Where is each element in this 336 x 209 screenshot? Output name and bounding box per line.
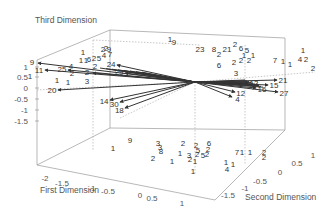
- box-edge: [110, 128, 285, 130]
- point-label: 2: [205, 150, 210, 159]
- projection-line: [120, 82, 195, 118]
- x-tick-label: 1: [180, 199, 185, 208]
- z-tick-label: -1: [21, 106, 29, 115]
- vector-label: 25: [58, 65, 67, 74]
- x-axis-title: First Dimension: [40, 185, 99, 195]
- point-label: 8: [159, 147, 164, 156]
- vector-label: 9: [30, 58, 35, 67]
- point-label: 23: [196, 45, 205, 54]
- point-label: 2: [239, 56, 244, 65]
- y-tick-label: 0: [278, 168, 283, 177]
- point-label: 1: [191, 167, 196, 176]
- data-point-labels: 1114231116252229471923822216265112237111…: [28, 35, 316, 176]
- vector-label: 20: [48, 86, 57, 95]
- point-label: 2: [232, 58, 237, 67]
- point-label: 2: [151, 154, 156, 163]
- z-axis-title: Third Dimension: [35, 15, 97, 25]
- box-edge: [37, 128, 110, 165]
- point-label: 1: [251, 51, 256, 60]
- point-label: 1: [170, 157, 175, 166]
- point-label: 1: [111, 144, 116, 153]
- x-tick-label: -2: [41, 174, 49, 183]
- point-label: 2: [217, 50, 222, 59]
- point-label: 2: [262, 153, 267, 162]
- vector-label: 21: [279, 76, 288, 85]
- point-label: 1: [281, 57, 286, 66]
- x-tick-label: 0: [138, 191, 143, 200]
- y-tick-label: 1: [311, 151, 316, 160]
- point-label: 1: [28, 72, 33, 81]
- point-label: 2: [70, 69, 75, 78]
- point-label: 9: [128, 136, 133, 145]
- point-label: 1: [301, 46, 306, 55]
- z-tick-label: -1.5: [14, 117, 28, 126]
- point-label: 7: [273, 56, 278, 65]
- point-label: 1: [178, 149, 183, 158]
- y-axis-title: Second Dimension: [245, 192, 317, 202]
- point-label: 2: [181, 139, 186, 148]
- vector-label: 14: [100, 97, 109, 106]
- vector-label: 4: [235, 95, 240, 104]
- 3d-biplot: 1192522429201430181316152127124 11142311…: [0, 0, 336, 209]
- box-edge: [110, 30, 285, 38]
- point-label: 1: [231, 160, 236, 169]
- y-tick-label: -0.5: [253, 177, 267, 186]
- point-label: 3: [85, 77, 90, 86]
- point-label: 1: [55, 76, 60, 85]
- point-label: 9: [172, 38, 177, 47]
- y-tick-label: -1.5: [221, 191, 235, 200]
- vector-label: 18: [115, 106, 124, 115]
- z-tick-label: -0.5: [14, 95, 28, 104]
- point-label: 7: [108, 50, 113, 59]
- point-label: 3: [234, 69, 239, 78]
- point-label: 1: [288, 60, 293, 69]
- x-tick-label: 0.5: [146, 194, 158, 203]
- z-tick-label: 1: [24, 63, 29, 72]
- point-label: 2: [247, 56, 252, 65]
- point-label: 21: [223, 45, 232, 54]
- point-label: 2: [311, 64, 316, 73]
- point-label: 1: [66, 78, 71, 87]
- x-tick-label: -0.5: [101, 187, 115, 196]
- point-label: 2: [233, 40, 238, 49]
- point-label: 2: [195, 150, 200, 159]
- z-tick-label: 0: [24, 84, 29, 93]
- point-label: 2: [93, 62, 98, 71]
- y-tick-label: 0.5: [291, 159, 303, 168]
- point-label: 4: [225, 165, 230, 174]
- vector-label: 27: [280, 89, 289, 98]
- point-label: 1: [248, 148, 253, 157]
- point-label: 4: [102, 51, 107, 60]
- point-label: 4: [298, 55, 303, 64]
- point-label: 6: [217, 61, 222, 70]
- z-tick-label: 0.5: [17, 73, 29, 82]
- point-label: 1: [240, 148, 245, 157]
- vector-arrow: [142, 72, 195, 82]
- point-label: 2: [304, 55, 309, 64]
